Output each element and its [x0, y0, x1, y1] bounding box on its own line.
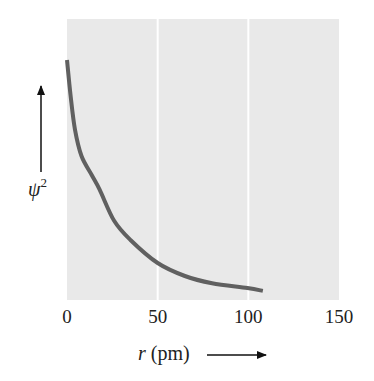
x-axis-label-variable: r	[138, 342, 146, 364]
x-axis-label: r(pm)	[138, 342, 190, 365]
y-axis-label: ψ2	[28, 175, 47, 201]
chart: 050100150 ψ2 r(pm)	[0, 0, 374, 381]
x-tick-label: 0	[62, 306, 72, 327]
plot-area	[67, 19, 339, 300]
y-axis-label-base: ψ	[28, 178, 41, 201]
x-tick-label: 50	[148, 306, 167, 327]
x-axis-tick-labels: 050100150	[62, 306, 353, 327]
y-axis-label-superscript: 2	[40, 175, 47, 190]
x-tick-label: 150	[325, 306, 354, 327]
x-tick-label: 100	[234, 306, 263, 327]
x-axis-label-unit: (pm)	[151, 342, 190, 365]
